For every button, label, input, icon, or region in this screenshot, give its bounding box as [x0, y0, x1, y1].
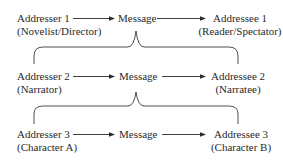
addressee-1-name: Addressee 1 [197, 12, 283, 25]
addresser-3-name: Addresser 3 [17, 128, 77, 141]
addresser-3-role: (Character A) [17, 141, 77, 154]
addressee-1-role: (Reader/Spectator) [197, 25, 283, 38]
message-1: Message [118, 12, 157, 25]
message-3: Message [119, 128, 158, 141]
communication-model-diagram: Addresser 1 (Novelist/Director) Message … [0, 0, 283, 165]
addresser-1: Addresser 1 (Novelist/Director) [17, 12, 101, 38]
addresser-2: Addresser 2 (Narrator) [17, 70, 70, 96]
addressee-3: Addressee 3 (Character B) [205, 128, 277, 154]
addressee-3-name: Addressee 3 [205, 128, 277, 141]
addressee-2: Addressee 2 (Narratee) [205, 70, 271, 96]
brace-level2-to-level3 [34, 92, 238, 124]
addressee-2-name: Addressee 2 [205, 70, 271, 83]
addresser-1-name: Addresser 1 [17, 12, 101, 25]
addresser-2-name: Addresser 2 [17, 70, 70, 83]
message-2: Message [119, 70, 158, 83]
addressee-1: Addressee 1 (Reader/Spectator) [197, 12, 283, 38]
addresser-3: Addresser 3 (Character A) [17, 128, 77, 154]
addresser-2-role: (Narrator) [17, 83, 70, 96]
addressee-3-role: (Character B) [205, 141, 277, 154]
addressee-2-role: (Narratee) [205, 83, 271, 96]
addresser-1-role: (Novelist/Director) [17, 25, 101, 38]
